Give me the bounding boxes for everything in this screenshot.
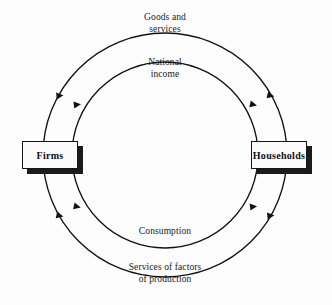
arrowhead-inner-upper-left	[73, 100, 81, 108]
arrowhead-outer-lower-right	[267, 211, 275, 219]
flow-arrowheads	[56, 91, 275, 219]
inner-flow-ring	[72, 62, 258, 248]
arrowhead-inner-lower-left	[73, 202, 81, 210]
entity-box-households[interactable]: Households	[251, 141, 307, 169]
arrowhead-inner-lower-right	[249, 202, 257, 210]
entity-box-firms[interactable]: Firms	[22, 141, 78, 169]
arrowhead-inner-upper-right	[249, 100, 257, 108]
circular-flow-diagram: Goods and services National income Consu…	[0, 0, 332, 305]
